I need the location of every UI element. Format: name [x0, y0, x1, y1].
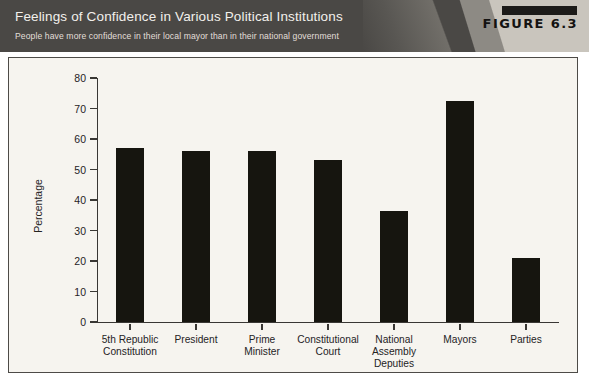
- y-tick-mark: [90, 199, 97, 200]
- y-tick-mark: [90, 230, 97, 231]
- figure-header-banner: Feelings of Confidence in Various Politi…: [0, 0, 589, 52]
- x-tick-mark: [393, 324, 394, 330]
- y-tick-mark: [90, 260, 97, 261]
- y-tick-label: 40: [59, 194, 86, 206]
- y-tick-label: 0: [59, 316, 86, 328]
- figure-number-label: FIGURE 6.3: [483, 16, 578, 31]
- y-tick-label: 50: [59, 164, 86, 176]
- bar: [380, 211, 408, 322]
- bar: [248, 151, 276, 322]
- x-tick-mark: [195, 324, 196, 330]
- x-tick-mark: [129, 324, 130, 330]
- y-tick-mark: [90, 291, 97, 292]
- y-tick-label: 20: [59, 255, 86, 267]
- figure-subtitle: People have more confidence in their loc…: [15, 31, 339, 41]
- y-tick-label: 80: [59, 72, 86, 84]
- y-tick-label: 60: [59, 133, 86, 145]
- y-tick-label: 70: [59, 103, 86, 115]
- y-tick-label: 10: [59, 286, 86, 298]
- y-axis-title: Percentage: [32, 161, 44, 251]
- chart-frame: Percentage 01020304050607080 5th Republi…: [8, 57, 578, 373]
- bar: [314, 160, 342, 322]
- x-tick-mark: [459, 324, 460, 330]
- figure-badge-bar: [502, 6, 577, 15]
- x-tick-mark: [327, 324, 328, 330]
- y-axis-line: [97, 78, 98, 323]
- figure-title: Feelings of Confidence in Various Politi…: [15, 9, 343, 24]
- x-tick-mark: [525, 324, 526, 330]
- x-axis-label: Parties: [484, 334, 568, 346]
- x-label-line: Constitution: [88, 346, 172, 358]
- y-tick-mark: [90, 169, 97, 170]
- x-label-line: Deputies: [352, 358, 436, 370]
- bar: [446, 101, 474, 322]
- bar: [182, 151, 210, 322]
- y-tick-mark: [90, 321, 97, 322]
- header-diagonal-wedge-shadow: [363, 0, 493, 52]
- bar: [116, 148, 144, 322]
- x-tick-mark: [261, 324, 262, 330]
- bar: [512, 258, 540, 322]
- x-label-line: Assembly: [352, 346, 436, 358]
- y-tick-mark: [90, 108, 97, 109]
- y-tick-label: 30: [59, 225, 86, 237]
- bar-chart-plot: Percentage 01020304050607080 5th Republi…: [9, 58, 577, 372]
- x-label-line: Parties: [484, 334, 568, 346]
- y-tick-mark: [90, 77, 97, 78]
- y-tick-mark: [90, 138, 97, 139]
